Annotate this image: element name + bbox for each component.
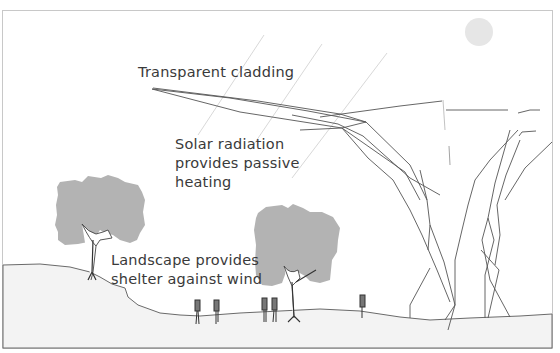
canopy-structure [152, 88, 552, 330]
label-solar-line-2: provides passive [175, 154, 300, 173]
label-solar-line-1: Solar radiation [175, 135, 300, 154]
label-solar-radiation: Solar radiation provides passive heating [175, 135, 300, 192]
label-solar-line-3: heating [175, 173, 300, 192]
label-landscape-shelter: Landscape provides shelter against wind [111, 251, 262, 289]
sun-icon [465, 18, 493, 46]
label-landscape-line-1: Landscape provides [111, 251, 262, 270]
label-transparent-cladding: Transparent cladding [138, 63, 294, 82]
label-landscape-line-2: shelter against wind [111, 270, 262, 289]
